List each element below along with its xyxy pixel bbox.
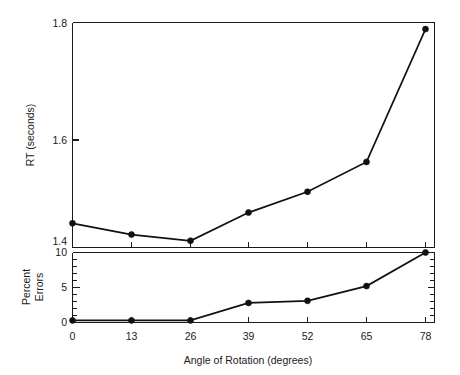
err-data-line [73,253,426,321]
err-ytick-label-5: 5 [61,281,67,293]
xtick-label-78: 78 [420,330,432,342]
err-data-point [364,283,370,289]
err-data-point [188,317,194,323]
rt-data-point [305,189,311,195]
err-data-point [305,298,311,304]
rt-axis-title: RT (seconds) [24,104,36,167]
x-axis-title: Angle of Rotation (degrees) [184,354,312,366]
xtick-label-13: 13 [126,330,138,342]
err-ytick-label-0: 0 [61,316,67,328]
err-axis-title-line2: Errors [33,273,45,302]
chart-canvas: 1.8 1.6 1.4 RT (seconds) [0,0,460,375]
xtick-label-65: 65 [361,330,373,342]
rt-ytick-label-1-8: 1.8 [52,17,67,29]
percent-errors-panel: 10 5 0 Percent Errors [20,246,435,328]
rt-ytick-label-1-6: 1.6 [52,134,67,146]
err-data-point [423,250,429,256]
chart-figure: 1.8 1.6 1.4 RT (seconds) [0,0,460,375]
err-axis-title-line1: Percent [20,269,32,305]
rt-data-point [364,159,370,165]
err-data-point [246,300,252,306]
rt-data-point [423,26,429,32]
rt-data-line [73,29,426,241]
err-data-point [70,317,76,323]
xtick-label-26: 26 [185,330,197,342]
rt-data-point [188,238,194,244]
rt-data-point [246,210,252,216]
xtick-label-52: 52 [302,330,314,342]
err-ytick-label-10: 10 [55,246,67,258]
x-axis-group: 0 13 26 39 52 65 78 Angle of Rotation (d… [70,330,432,366]
xtick-label-0: 0 [70,330,76,342]
reaction-time-panel: 1.8 1.6 1.4 RT (seconds) [24,17,435,248]
err-data-point [129,317,135,323]
rt-data-point [70,220,76,226]
xtick-label-39: 39 [243,330,255,342]
rt-data-point [129,232,135,238]
